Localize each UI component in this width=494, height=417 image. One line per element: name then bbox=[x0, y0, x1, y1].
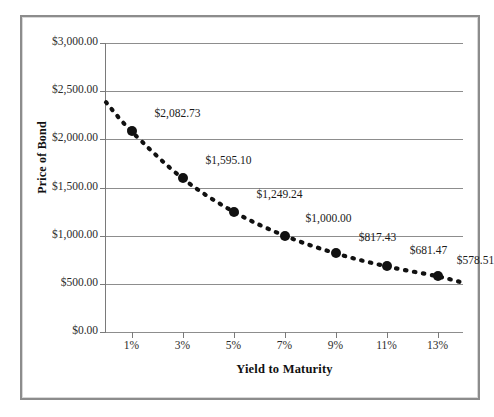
x-tick bbox=[132, 332, 133, 338]
x-tick-label: 7% bbox=[277, 339, 292, 351]
data-point-label: $817.43 bbox=[359, 231, 396, 243]
x-tick-label: 3% bbox=[175, 339, 190, 351]
x-tick bbox=[336, 332, 337, 338]
y-tick bbox=[100, 43, 106, 44]
data-point-marker bbox=[178, 173, 188, 183]
data-point-marker bbox=[280, 231, 290, 241]
x-tick bbox=[387, 332, 388, 338]
y-tick-label: $0.00 bbox=[36, 324, 98, 336]
data-point-label: $1,249.24 bbox=[257, 188, 303, 200]
x-tick bbox=[285, 332, 286, 338]
y-tick bbox=[100, 188, 106, 189]
y-tick bbox=[100, 139, 106, 140]
x-tick-label: 13% bbox=[427, 339, 448, 351]
data-point-marker bbox=[331, 248, 341, 258]
figure-inner-border bbox=[22, 17, 478, 398]
y-tick bbox=[100, 284, 106, 285]
x-tick-label: 11% bbox=[376, 339, 397, 351]
gridline bbox=[106, 43, 463, 44]
x-tick bbox=[234, 332, 235, 338]
data-point-marker bbox=[127, 126, 137, 136]
y-tick-label: $3,000.00 bbox=[36, 35, 98, 47]
gridline bbox=[106, 91, 463, 92]
x-axis-title: Yield to Maturity bbox=[106, 362, 463, 377]
x-tick-label: 5% bbox=[226, 339, 241, 351]
data-point-label: $1,595.10 bbox=[206, 154, 252, 166]
data-point-label: $578.51 bbox=[457, 254, 494, 266]
data-point-marker bbox=[382, 261, 392, 271]
x-tick bbox=[183, 332, 184, 338]
data-point-label: $1,000.00 bbox=[306, 212, 352, 224]
x-tick-label: 9% bbox=[328, 339, 343, 351]
gridline bbox=[106, 139, 463, 140]
data-point-marker bbox=[229, 207, 239, 217]
x-tick-label: 1% bbox=[124, 339, 139, 351]
data-point-marker bbox=[433, 271, 443, 281]
y-tick bbox=[100, 91, 106, 92]
gridline bbox=[106, 284, 463, 285]
y-axis-title: Price of Bond bbox=[35, 88, 50, 228]
data-point-label: $681.47 bbox=[410, 244, 447, 256]
y-tick-label: $1,000.00 bbox=[36, 228, 98, 240]
y-tick bbox=[100, 332, 106, 333]
x-tick bbox=[438, 332, 439, 338]
y-tick-label: $500.00 bbox=[36, 276, 98, 288]
y-tick bbox=[100, 236, 106, 237]
data-point-label: $2,082.73 bbox=[155, 107, 201, 119]
